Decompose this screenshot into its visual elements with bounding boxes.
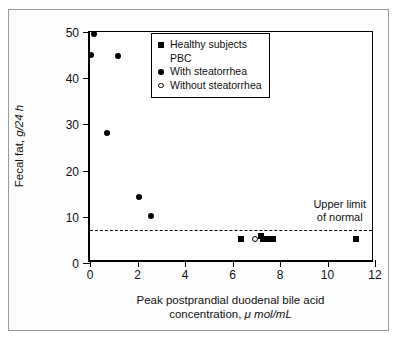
x-axis-tick-label: 10 [321, 268, 334, 282]
data-point [353, 236, 359, 242]
x-axis-tick-label: 0 [87, 268, 94, 282]
x-axis-tick-label: 8 [277, 268, 284, 282]
y-axis-tick: 30 [83, 124, 90, 125]
figure-panel: Fecal fat, g/24 h Peak postprandial duod… [8, 9, 389, 331]
legend-entry-label: Without steatorrhea [170, 79, 262, 93]
x-axis-tick-label: 12 [368, 268, 381, 282]
data-point [148, 213, 154, 219]
y-axis-tick-label: 50 [66, 26, 79, 40]
legend-marker-square [158, 42, 170, 48]
y-axis-tick: 40 [83, 78, 90, 79]
x-axis-title-units: μ mol/mL [245, 308, 292, 320]
legend-box: Healthy subjectsPBCWith steatorrheaWitho… [151, 33, 270, 98]
y-axis-tick: 10 [83, 217, 90, 218]
upper-limit-annotation: Upper limitof normal [313, 198, 366, 223]
x-axis-tick [90, 260, 91, 267]
legend-entry: Healthy subjects [158, 38, 262, 52]
upper-limit-label-line2: of normal [313, 211, 366, 224]
legend-entry-label: PBC [170, 52, 192, 66]
x-axis-tick [185, 260, 186, 267]
x-axis-tick [375, 260, 376, 267]
legend-entry: Without steatorrhea [158, 79, 262, 93]
data-point [136, 194, 142, 200]
legend-entry: PBC [158, 52, 262, 66]
data-point [104, 130, 110, 136]
data-point [91, 31, 97, 37]
upper-limit-line [90, 230, 372, 231]
legend-filled-circle-icon [158, 69, 164, 75]
y-axis-tick-label: 20 [66, 165, 79, 179]
x-axis-tick [328, 260, 329, 267]
y-axis-title-text: Fecal fat, [13, 137, 25, 188]
y-axis-tick: 0 [83, 263, 90, 264]
x-axis-tick-label: 4 [182, 268, 189, 282]
x-axis-title: Peak postprandial duodenal bile acid con… [88, 293, 373, 321]
x-axis-title-line1: Peak postprandial duodenal bile acid [137, 294, 325, 306]
data-point [238, 236, 244, 242]
upper-limit-label-line1: Upper limit [313, 198, 366, 211]
legend-entry-label: Healthy subjects [170, 38, 247, 52]
data-point [115, 53, 121, 59]
y-axis-title: Fecal fat, g/24 h [13, 105, 25, 187]
x-axis-title-line2: concentration, [169, 308, 244, 320]
y-axis-tick: 50 [83, 32, 90, 33]
data-point [252, 236, 258, 242]
x-axis-tick [280, 260, 281, 267]
data-point [264, 236, 270, 242]
legend-square-icon [158, 42, 164, 48]
legend-entry-label: With steatorrhea [170, 65, 247, 79]
legend-entry: With steatorrhea [158, 65, 262, 79]
y-axis-tick-label: 0 [72, 257, 79, 271]
data-point [270, 236, 276, 242]
y-axis-tick-label: 40 [66, 72, 79, 86]
y-axis-tick: 20 [83, 171, 90, 172]
legend-open-circle-icon [158, 83, 164, 89]
y-axis-tick-label: 10 [66, 211, 79, 225]
y-axis-title-units: g/24 h [13, 105, 25, 137]
y-axis-tick-label: 30 [66, 118, 79, 132]
x-axis-tick [138, 260, 139, 267]
x-axis-tick-label: 2 [134, 268, 141, 282]
x-axis-tick [233, 260, 234, 267]
legend-marker-filled-circle [158, 69, 170, 75]
data-point [88, 52, 94, 58]
x-axis-tick-label: 6 [229, 268, 236, 282]
legend-marker-open-circle [158, 83, 170, 89]
